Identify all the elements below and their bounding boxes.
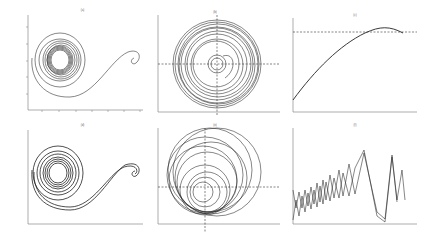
line-plot-c bbox=[285, 0, 425, 120]
panel-b: (b) bbox=[145, 0, 285, 120]
panel-a: (a) bbox=[0, 0, 145, 120]
panel-f: (f) bbox=[285, 120, 425, 239]
panel-d: (d) bbox=[0, 120, 145, 239]
phase-plot-a bbox=[0, 0, 145, 120]
phase-plot-e bbox=[145, 120, 285, 239]
phase-plot-d bbox=[0, 120, 145, 239]
phase-plot-b bbox=[145, 0, 285, 120]
figure: (a) (b) bbox=[0, 0, 425, 239]
panel-c: (c) bbox=[285, 0, 425, 120]
line-plot-f bbox=[285, 120, 425, 239]
panel-e: (e) bbox=[145, 120, 285, 239]
